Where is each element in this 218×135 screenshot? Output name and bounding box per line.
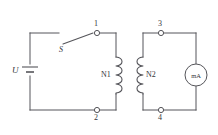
switch-blade[interactable]	[63, 33, 93, 44]
coil-label-n1: N1	[101, 71, 111, 79]
terminal-node-3[interactable]	[158, 30, 163, 35]
circuit-schematic-canvas	[0, 0, 218, 135]
source-label-u: U	[12, 66, 19, 75]
terminal-label-3: 3	[158, 20, 162, 28]
coil-n2	[137, 57, 143, 94]
switch-label-s: S	[59, 46, 63, 54]
terminal-label-1: 1	[94, 20, 98, 28]
terminal-label-2: 2	[94, 114, 98, 122]
coil-n1	[116, 57, 122, 94]
milliammeter-label: mA	[186, 72, 206, 79]
terminal-node-1[interactable]	[94, 30, 99, 35]
coil-label-n2: N2	[146, 71, 156, 79]
terminal-node-2[interactable]	[94, 107, 99, 112]
terminal-label-4: 4	[158, 114, 162, 122]
terminal-node-4[interactable]	[158, 107, 163, 112]
circuit-diagram-figure: 1 2 3 4 U S N1 N2 mA	[0, 0, 218, 135]
